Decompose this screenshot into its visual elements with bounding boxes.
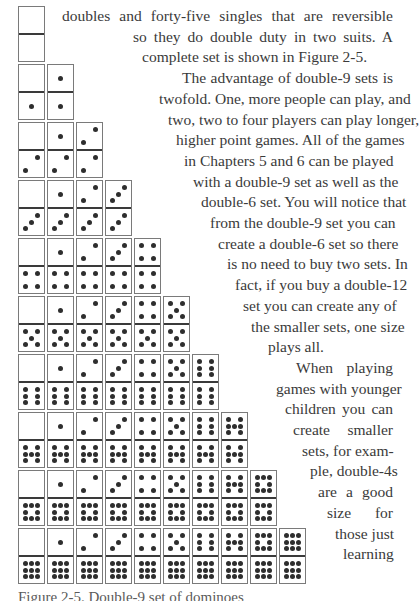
pip-dot-icon	[180, 561, 185, 566]
pip-dot-icon	[110, 430, 115, 435]
pip-dot-icon	[93, 359, 98, 364]
pip-dot-icon	[209, 510, 214, 515]
domino-half-top-1	[48, 355, 73, 381]
pip-dot-icon	[151, 271, 156, 276]
domino-0-2	[18, 122, 45, 178]
pip-dot-icon	[58, 134, 63, 139]
pip-dot-icon	[81, 372, 86, 377]
pip-dot-icon	[81, 226, 86, 231]
pip-dot-icon	[290, 574, 295, 579]
domino-3-9	[105, 528, 132, 584]
domino-half-top-1	[48, 529, 73, 555]
domino-half-top-3	[106, 297, 131, 323]
pip-dot-icon	[197, 503, 202, 508]
pip-dot-icon	[52, 342, 57, 347]
pip-dot-icon	[122, 329, 127, 334]
pip-dot-icon	[209, 488, 214, 493]
text-line: doubles and forty-five singles that are …	[62, 6, 393, 26]
pip-dot-icon	[139, 342, 144, 347]
pip-dot-icon	[87, 574, 92, 579]
text-line: so they do double duty in two suits. A	[133, 27, 393, 47]
domino-half-top-8	[251, 529, 276, 555]
domino-half-top-1	[48, 65, 73, 91]
domino-half-bottom-6	[193, 383, 218, 409]
pip-dot-icon	[29, 336, 34, 341]
pip-dot-icon	[226, 540, 231, 545]
pip-dot-icon	[29, 568, 34, 573]
pip-dot-icon	[116, 540, 121, 545]
pip-dot-icon	[267, 482, 272, 487]
pip-dot-icon	[232, 516, 237, 521]
pip-dot-icon	[168, 445, 173, 450]
domino-half-top-5	[164, 297, 189, 323]
pip-dot-icon	[197, 540, 202, 545]
text-line: The advantage of double-9 sets is	[182, 68, 393, 88]
pip-dot-icon	[58, 76, 63, 81]
pip-dot-icon	[197, 430, 202, 435]
domino-8-8	[250, 470, 277, 526]
domino-half-bottom-5	[135, 325, 160, 351]
pip-dot-icon	[151, 488, 156, 493]
pip-dot-icon	[93, 185, 98, 190]
pip-dot-icon	[110, 574, 115, 579]
pip-dot-icon	[151, 516, 156, 521]
domino-4-5	[134, 296, 161, 352]
text-line: are a good	[318, 482, 393, 502]
pip-dot-icon	[110, 329, 115, 334]
domino-half-bottom-1	[19, 93, 44, 119]
domino-half-top-4	[135, 471, 160, 497]
domino-half-top-6	[193, 471, 218, 497]
domino-half-bottom-9	[222, 557, 247, 583]
pip-dot-icon	[23, 284, 28, 289]
pip-dot-icon	[29, 220, 34, 225]
pip-dot-icon	[168, 488, 173, 493]
pip-dot-icon	[238, 482, 243, 487]
pip-dot-icon	[29, 503, 34, 508]
pip-dot-icon	[151, 417, 156, 422]
pip-dot-icon	[110, 314, 115, 319]
domino-2-5	[76, 296, 103, 352]
pip-dot-icon	[180, 568, 185, 573]
domino-half-bottom-3	[48, 209, 73, 235]
pip-dot-icon	[35, 271, 40, 276]
pip-dot-icon	[23, 445, 28, 450]
domino-half-bottom-0	[19, 35, 44, 61]
text-line: double-6 set. You will notice that	[201, 192, 393, 212]
pip-dot-icon	[168, 561, 173, 566]
pip-dot-icon	[81, 140, 86, 145]
pip-dot-icon	[168, 301, 173, 306]
pip-dot-icon	[168, 574, 173, 579]
domino-5-7	[163, 412, 190, 468]
pip-dot-icon	[122, 452, 127, 457]
pip-dot-icon	[93, 458, 98, 463]
pip-dot-icon	[81, 387, 86, 392]
domino-half-bottom-8	[77, 499, 102, 525]
domino-half-top-3	[106, 413, 131, 439]
pip-dot-icon	[209, 533, 214, 538]
pip-dot-icon	[139, 400, 144, 405]
pip-dot-icon	[58, 574, 63, 579]
pip-dot-icon	[23, 271, 28, 276]
pip-dot-icon	[122, 284, 127, 289]
text-line: children you can	[285, 399, 393, 419]
domino-1-9	[47, 528, 74, 584]
pip-dot-icon	[290, 568, 295, 573]
pip-dot-icon	[81, 445, 86, 450]
pip-dot-icon	[93, 342, 98, 347]
pip-dot-icon	[64, 394, 69, 399]
domino-3-5	[105, 296, 132, 352]
pip-dot-icon	[261, 503, 266, 508]
pip-dot-icon	[168, 394, 173, 399]
pip-dot-icon	[168, 430, 173, 435]
domino-2-8	[76, 470, 103, 526]
domino-half-bottom-9	[251, 557, 276, 583]
pip-dot-icon	[180, 430, 185, 435]
pip-dot-icon	[122, 301, 127, 306]
pip-dot-icon	[52, 226, 57, 231]
domino-half-top-4	[135, 297, 160, 323]
pip-dot-icon	[168, 342, 173, 347]
pip-dot-icon	[139, 359, 144, 364]
pip-dot-icon	[232, 503, 237, 508]
pip-dot-icon	[145, 568, 150, 573]
pip-dot-icon	[122, 458, 127, 463]
